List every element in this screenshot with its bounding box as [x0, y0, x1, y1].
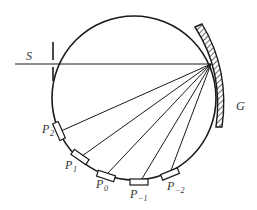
detector-p1 [71, 149, 89, 164]
svg-text:P: P [41, 122, 50, 136]
svg-text:0: 0 [104, 184, 108, 193]
svg-text:1: 1 [73, 165, 77, 174]
label-grating: G [236, 99, 245, 113]
detector-pm1 [130, 179, 148, 185]
detector-p2 [53, 122, 66, 141]
ray-pm1 [140, 64, 211, 182]
ray-p2 [61, 64, 211, 131]
label-pm2: P −2 [166, 179, 184, 195]
svg-text:−1: −1 [138, 194, 147, 203]
svg-text:−2: −2 [175, 186, 184, 195]
label-p1: P 1 [64, 158, 77, 174]
svg-text:P: P [64, 158, 73, 172]
svg-text:2: 2 [50, 129, 54, 138]
grating [195, 24, 224, 127]
diffracted-rays [61, 64, 211, 182]
svg-text:P: P [166, 179, 175, 193]
ray-p1 [82, 64, 211, 156]
rowland-circle-diagram: S G P 2 P 1 P 0 P −1 P −2 [0, 0, 257, 210]
label-pm1: P −1 [129, 187, 147, 203]
svg-text:P: P [95, 177, 104, 191]
detectors [53, 122, 180, 185]
ray-p0 [107, 64, 211, 174]
label-p2: P 2 [41, 122, 54, 138]
label-source: S [26, 49, 32, 63]
svg-text:P: P [129, 187, 138, 201]
